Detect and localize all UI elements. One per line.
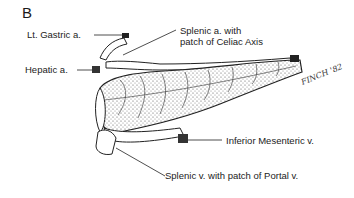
label-inferior-mesenteric: Inferior Mesenteric v.	[226, 135, 314, 146]
label-lt-gastric: Lt. Gastric a.	[27, 29, 81, 40]
label-splenic-a-line1: Splenic a. with	[180, 25, 241, 36]
leader-splenic-v	[116, 148, 165, 176]
leader-splenic-a	[123, 30, 176, 55]
label-hepatic: Hepatic a.	[25, 64, 68, 75]
label-splenic-a-line2: patch of Celiac Axis	[180, 36, 263, 47]
pancreas-body	[98, 60, 302, 132]
label-splenic-v: Splenic v. with patch of Portal v.	[165, 170, 298, 181]
